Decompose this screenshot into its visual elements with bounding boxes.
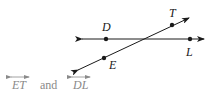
label-l: L — [185, 45, 193, 59]
label-d: D — [101, 20, 111, 34]
point-e — [102, 56, 106, 60]
label-e: E — [108, 58, 117, 72]
caption-line-dl: DL — [72, 78, 89, 92]
geometry-figure: D T L E ET and DL — [0, 0, 217, 99]
caption-line-et: ET — [11, 78, 27, 92]
point-t — [170, 23, 174, 27]
label-t: T — [169, 6, 177, 20]
point-d — [104, 37, 108, 41]
caption-and: and — [40, 78, 57, 92]
point-l — [188, 37, 192, 41]
